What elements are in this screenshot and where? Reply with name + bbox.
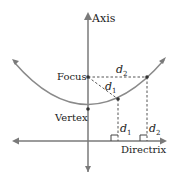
directrix-label: Directrix: [121, 144, 167, 155]
d2-top-subscript: 2: [123, 70, 127, 78]
right-angle-mark-2: [140, 135, 147, 141]
vertex-label: Vertex: [54, 112, 88, 123]
focus-point: [86, 75, 90, 79]
d2-vert-label: d: [149, 122, 156, 135]
d1-diag-label: d: [105, 80, 112, 93]
d1-diag-subscript: 1: [112, 87, 116, 95]
right-angle-mark-1: [111, 135, 118, 141]
d1-vert-subscript: 1: [127, 129, 131, 137]
curve-point-2: [145, 75, 149, 79]
vertex-point: [86, 107, 90, 111]
focus-label: Focus: [57, 71, 87, 82]
d2-top-label: d: [116, 63, 123, 76]
parabola-diagram: Axis Focus Vertex Directrix d 2 d 1 d 1 …: [0, 0, 186, 182]
axis-label: Axis: [91, 12, 116, 25]
d1-vert-label: d: [120, 122, 127, 135]
curve-point-1: [116, 97, 120, 101]
d2-vert-subscript: 2: [156, 129, 160, 137]
parabola-curve: [14, 60, 164, 105]
